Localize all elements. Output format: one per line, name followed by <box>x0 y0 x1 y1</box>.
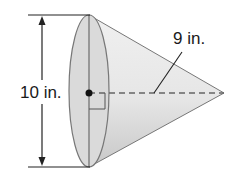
center-dot <box>86 90 93 97</box>
height-label: 9 in. <box>173 30 205 47</box>
diameter-label: 10 in. <box>20 84 62 101</box>
arrowhead-down-icon <box>39 157 46 166</box>
arrowhead-up-icon <box>39 16 46 25</box>
